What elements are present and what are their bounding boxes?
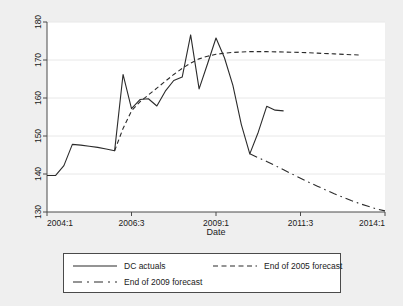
legend-label-end-of-2005-forecast: End of 2005 forecast <box>264 261 342 271</box>
legend-entry-end-of-2009-forecast: End of 2009 forecast <box>72 275 202 289</box>
x-axis-tick-label: 2004:1 <box>47 218 73 228</box>
y-axis-tick-label: 170 <box>33 53 43 67</box>
x-axis-tick-label: 2006:3 <box>119 218 145 228</box>
y-axis-tick-label: 130 <box>33 205 43 219</box>
x-axis-tick-label: 2011:3 <box>288 218 314 228</box>
legend-entry-end-of-2005-forecast: End of 2005 forecast <box>212 259 342 273</box>
x-axis-tick-label: 2014:1 <box>359 218 385 228</box>
graph-area: 130140150160170180 2004:12006:32009:1201… <box>0 0 403 240</box>
legend-swatch-dashed <box>212 261 258 271</box>
chart-legend: DC actuals End of 2005 forecast End of 2… <box>63 253 341 293</box>
line-chart: 130140150160170180 2004:12006:32009:1201… <box>0 0 403 240</box>
plot-background <box>47 22 385 212</box>
chart-screenshot: 130140150160170180 2004:12006:32009:1201… <box>0 0 403 306</box>
legend-entry-dc-actuals: DC actuals <box>72 259 166 273</box>
legend-label-dc-actuals: DC actuals <box>124 261 166 271</box>
legend-swatch-longdash <box>72 277 118 287</box>
legend-swatch-solid <box>72 261 118 271</box>
y-axis-tick-label: 140 <box>33 167 43 181</box>
y-axis-tick-label: 180 <box>33 15 43 29</box>
y-axis-tick-label: 160 <box>33 91 43 105</box>
y-axis-tick-label: 150 <box>33 129 43 143</box>
y-axis-tick-labels: 130140150160170180 <box>33 15 43 219</box>
legend-label-end-of-2009-forecast: End of 2009 forecast <box>124 277 202 287</box>
y-axis-ticks <box>43 22 47 212</box>
x-axis-ticks <box>47 212 385 216</box>
x-axis-title: Date <box>206 227 225 237</box>
